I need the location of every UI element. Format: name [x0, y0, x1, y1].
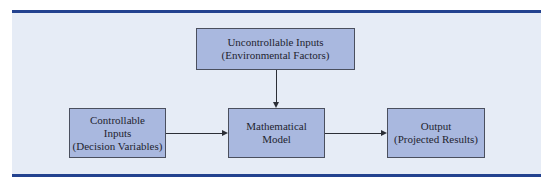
- bottom-rule: [12, 174, 541, 177]
- arrow-model-to-output: [325, 133, 381, 134]
- controllable-inputs-box: Controllable Inputs (Decision Variables): [69, 108, 166, 158]
- output-box: Output (Projected Results): [387, 108, 485, 158]
- controllable-inputs-subtitle: (Decision Variables): [73, 140, 163, 153]
- top-rule: [12, 10, 541, 13]
- output-title: Output: [421, 120, 452, 133]
- mathematical-model-title-2: Model: [262, 133, 291, 146]
- mathematical-model-box: Mathematical Model: [228, 108, 325, 158]
- controllable-inputs-title-2: Inputs: [104, 127, 132, 140]
- arrow-controllable-to-model: [166, 133, 222, 134]
- output-subtitle: (Projected Results): [394, 133, 478, 146]
- arrow-uncontrollable-to-model: [276, 70, 277, 103]
- uncontrollable-inputs-title: Uncontrollable Inputs: [227, 36, 323, 49]
- uncontrollable-inputs-box: Uncontrollable Inputs (Environmental Fac…: [196, 28, 355, 70]
- uncontrollable-inputs-subtitle: (Environmental Factors): [222, 49, 330, 62]
- controllable-inputs-title: Controllable: [90, 114, 145, 127]
- mathematical-model-title: Mathematical: [246, 120, 306, 133]
